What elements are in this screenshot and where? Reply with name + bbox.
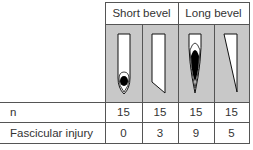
row-label-n: n (10, 102, 16, 122)
injury-value-short-front: 0 (105, 122, 142, 143)
grid-line-group-divider (178, 2, 179, 144)
grid-line-image-bottom (0, 102, 250, 103)
injury-value-long-side: 5 (214, 122, 249, 143)
short-bevel-side-needle-icon (152, 34, 165, 93)
injury-value-short-side: 3 (142, 122, 178, 143)
n-value-short-front: 15 (105, 102, 142, 122)
grid-line-bottom (0, 143, 250, 144)
injury-value-long-front: 9 (178, 122, 214, 143)
n-value-long-front: 15 (178, 102, 214, 122)
short-bevel-front-needle-icon (118, 34, 130, 94)
grid-line-col2 (142, 24, 143, 144)
grid-line-n-bottom (0, 122, 250, 123)
grid-line-col4 (214, 24, 215, 144)
long-bevel-front-needle-icon (189, 34, 201, 93)
column-group-short-bevel: Short bevel (105, 2, 178, 24)
grid-line-left (105, 2, 106, 144)
long-bevel-side-needle-icon (224, 34, 237, 92)
n-value-long-side: 15 (214, 102, 249, 122)
n-value-short-side: 15 (142, 102, 178, 122)
grid-line-right (249, 2, 250, 144)
row-label-fascicular-injury: Fascicular injury (10, 122, 93, 143)
column-group-long-bevel: Long bevel (178, 2, 249, 24)
